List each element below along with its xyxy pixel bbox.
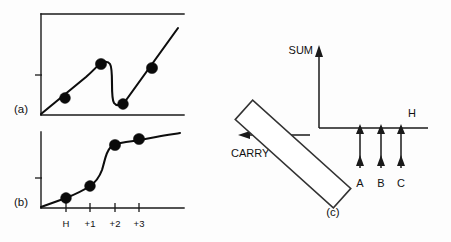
panel-c-sum-arrowhead — [315, 45, 323, 57]
panel-c: SUM H CARRY A B C — [231, 44, 428, 218]
panel-c-input-a-arrowhead-mid — [356, 155, 364, 166]
panel-c-label: (c) — [326, 206, 340, 218]
panel-c-carry-label: CARRY — [231, 147, 270, 159]
panel-b-xtick-label-3: +3 — [134, 218, 145, 229]
figure-canvas: (a) H +1 +2 +3 (b) — [0, 0, 451, 242]
panel-c-input-label-b: B — [377, 177, 384, 189]
panel-b: H +1 +2 +3 (b) — [14, 132, 184, 229]
panel-b-marker-3 — [109, 139, 120, 150]
panel-c-input-b-arrowhead-top — [377, 124, 385, 134]
panel-c-input-c-arrowhead-mid — [397, 155, 405, 166]
panel-b-label: (b) — [14, 196, 28, 208]
panel-a-marker-2 — [95, 58, 106, 69]
panel-b-marker-1 — [61, 193, 72, 204]
panel-c-h-label: H — [408, 107, 416, 119]
panel-a-marker-4 — [146, 62, 157, 73]
panel-c-input-b-arrowhead-mid — [377, 155, 385, 166]
panel-b-xtick-label-0: H — [63, 218, 70, 229]
panel-c-input-label-c: C — [397, 177, 405, 189]
panel-c-input-label-a: A — [356, 177, 364, 189]
panel-b-xtick-label-1: +1 — [85, 218, 96, 229]
panel-b-marker-2 — [85, 181, 96, 192]
panel-a-marker-1 — [60, 93, 71, 104]
panel-a-marker-3 — [118, 99, 129, 110]
panel-c-input-a-arrowhead-top — [356, 124, 364, 134]
panel-b-marker-4 — [133, 133, 144, 144]
panel-a: (a) — [14, 14, 184, 115]
panel-c-input-c-arrowhead-top — [397, 124, 405, 134]
panel-b-xtick-label-2: +2 — [110, 218, 121, 229]
panel-a-label: (a) — [14, 103, 28, 115]
panel-c-sum-label: SUM — [289, 44, 313, 56]
figure-root: (a) H +1 +2 +3 (b) — [0, 0, 451, 242]
